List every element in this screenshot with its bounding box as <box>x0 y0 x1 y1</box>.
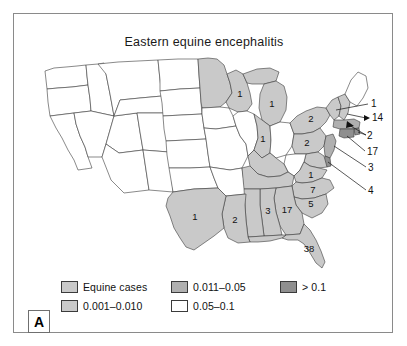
state-value-new-york: 2 <box>308 113 313 124</box>
legend-label-gt-0-1: > 0.1 <box>302 281 326 293</box>
map-states-west <box>45 60 173 193</box>
state-ohio <box>270 122 294 158</box>
callout-value-massachusetts: 2 <box>367 130 373 141</box>
leader-arrow-new-hampshire <box>364 115 370 121</box>
legend-item-gt-0-1: > 0.1 <box>280 278 326 295</box>
callout-value-vermont: 1 <box>371 98 377 109</box>
panel-label: A <box>28 310 50 333</box>
state-value-north-carolina: 7 <box>310 184 315 195</box>
state-value-georgia: 17 <box>282 204 293 215</box>
state-rhode-island <box>354 128 360 135</box>
state-value-texas: 1 <box>192 211 197 222</box>
legend-swatch-0-001-0-010 <box>61 300 78 312</box>
legend-label-0-05-0-1: 0.05–0.1 <box>193 300 235 312</box>
state-oregon <box>47 85 91 116</box>
state-south-dakota <box>160 88 202 116</box>
map-svg: 1 1 1 1 2 3 17 38 5 7 1 2 2 <box>14 50 394 272</box>
legend-item-equine-cases: Equine cases <box>61 278 147 295</box>
legend-row-right: > 0.1 <box>280 278 326 295</box>
callout-value-connecticut: 17 <box>367 146 379 157</box>
state-kansas <box>166 139 210 168</box>
map-legend: Equine cases 0.001–0.010 0.011–0.05 0. <box>61 278 361 318</box>
state-value-wisconsin: 1 <box>237 88 242 99</box>
state-value-florida: 38 <box>304 243 315 254</box>
callout-value-new-jersey: 3 <box>368 162 374 173</box>
state-value-indiana: 1 <box>260 133 265 144</box>
us-choropleth-map: 1 1 1 1 2 3 17 38 5 7 1 2 2 <box>14 50 394 272</box>
state-value-south-carolina: 5 <box>308 198 313 209</box>
state-connecticut <box>339 129 354 138</box>
leader-line-connecticut <box>347 136 365 151</box>
legend-row-top: Equine cases <box>61 278 147 295</box>
legend-label-equine-cases: Equine cases <box>83 281 147 293</box>
legend-item-0-001-0-010: 0.001–0.010 <box>61 297 143 314</box>
figure-frame: Eastern equine encephalitis <box>13 13 393 333</box>
legend-label-0-001-0-010: 0.001–0.010 <box>83 300 143 312</box>
leader-line-new-hampshire <box>347 114 366 118</box>
leader-line-new-jersey <box>334 146 366 167</box>
legend-row-bottom: 0.001–0.010 <box>61 297 143 314</box>
page-title: Eastern equine encephalitis <box>14 35 394 49</box>
state-washington <box>45 65 88 89</box>
legend-item-0-011-0-05: 0.011–0.05 <box>171 278 246 295</box>
legend-swatch-0-05-0-1 <box>171 300 188 312</box>
state-value-alabama: 3 <box>265 205 270 216</box>
state-value-virginia: 1 <box>308 169 313 180</box>
figure-panel: Eastern equine encephalitis <box>0 0 407 346</box>
state-value-michigan: 1 <box>269 98 274 109</box>
legend-item-0-05-0-1: 0.05–0.1 <box>171 297 235 314</box>
legend-row-mid-top: 0.011–0.05 <box>171 278 246 295</box>
state-iowa <box>202 107 236 129</box>
legend-swatch-0-011-0-05 <box>171 281 188 293</box>
legend-row-mid-bottom: 0.05–0.1 <box>171 297 235 314</box>
callout-value-delaware: 4 <box>368 185 374 196</box>
state-value-pennsylvania: 2 <box>304 137 309 148</box>
legend-swatch-gt-0-1 <box>280 281 297 293</box>
state-north-dakota <box>158 59 200 91</box>
state-nebraska <box>163 114 206 141</box>
leader-line-delaware <box>328 162 366 190</box>
legend-label-0-011-0-05: 0.011–0.05 <box>193 281 246 293</box>
legend-swatch-equine-cases <box>61 281 78 293</box>
state-value-louisiana: 2 <box>232 214 237 225</box>
callout-value-new-hampshire: 14 <box>372 112 384 123</box>
